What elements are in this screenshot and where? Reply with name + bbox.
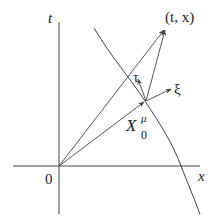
spacetime-diagram: t x 0 (t, x) τ ξ X μ 0 [0, 0, 217, 224]
tau-vector [138, 79, 146, 101]
vector-origin-to-event [59, 30, 164, 166]
base-point-subscript: 0 [141, 128, 147, 142]
event-point-label: (t, x) [165, 9, 194, 26]
worldline-curve [94, 28, 200, 214]
xi-label: ξ [174, 81, 181, 97]
tau-label: τ [133, 70, 139, 85]
x-axis-label: x [197, 168, 205, 184]
base-point-label: X [125, 116, 137, 135]
origin-label: 0 [45, 171, 53, 187]
xi-vector [146, 89, 171, 101]
t-axis-label: t [48, 10, 53, 26]
base-point-superscript: μ [140, 112, 147, 124]
